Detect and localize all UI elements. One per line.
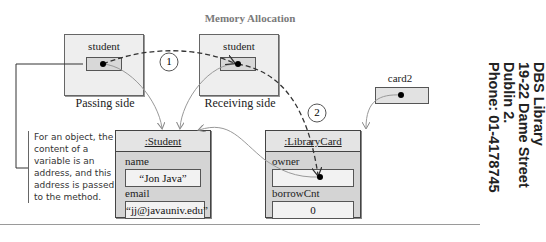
owner-address-dot [317, 174, 323, 180]
stamp-line-city: Dublin 2. [501, 62, 516, 193]
connector-layer [0, 0, 546, 242]
receiving-reference-arrow [180, 64, 238, 128]
stamp-line-phone: Phone: 01-4178745 [486, 62, 501, 193]
step2-number: 2 [311, 106, 323, 118]
stamp-line-name: DBS Library [531, 62, 546, 193]
card2-reference-arrow [366, 95, 401, 128]
card2-address-dot [398, 92, 404, 98]
step2-dashed-arrow [238, 64, 318, 175]
step1-number: 1 [163, 55, 175, 67]
stamp-line-street: 19-22 Dame Street [516, 62, 531, 193]
explanatory-note: For an object, the content of a variable… [28, 131, 116, 203]
passing-address-dot [100, 61, 106, 67]
receiving-address-dot [235, 61, 241, 67]
library-stamp: DBS Library 19-22 Dame Street Dublin 2. … [486, 62, 546, 193]
owner-reference-arrow [199, 127, 320, 177]
page-separator [0, 224, 480, 225]
passing-reference-arrow [103, 64, 162, 128]
